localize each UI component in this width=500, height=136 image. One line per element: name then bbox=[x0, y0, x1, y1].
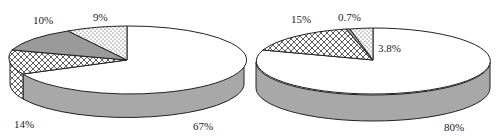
label-15: 15% bbox=[291, 13, 311, 25]
right-pie-chart: 15% 0.7% 3.8% 80% bbox=[256, 11, 490, 133]
label-0-7: 0.7% bbox=[338, 11, 361, 23]
label-3-8: 3.8% bbox=[378, 42, 401, 54]
pie-charts: 10% 9% 14% 67% 15% 0.7% 3.8% 80% bbox=[0, 0, 500, 136]
label-9: 9% bbox=[93, 11, 108, 23]
label-80: 80% bbox=[444, 121, 464, 133]
label-67: 67% bbox=[193, 120, 213, 132]
label-14: 14% bbox=[14, 118, 34, 130]
label-10: 10% bbox=[33, 14, 53, 26]
left-pie-chart: 10% 9% 14% 67% bbox=[9, 11, 247, 132]
